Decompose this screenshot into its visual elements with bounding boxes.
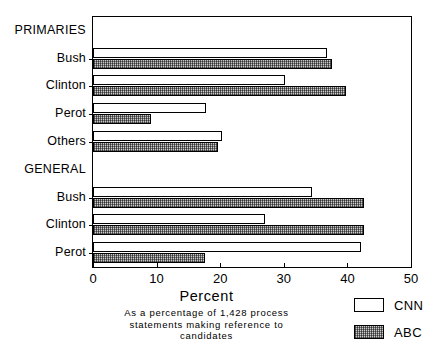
bar-cnn-clinton-2 — [93, 75, 285, 85]
y-axis-label-perot-8: Perot — [55, 245, 86, 259]
bar-abc-clinton-7 — [93, 225, 364, 235]
x-tick-label-40: 40 — [340, 271, 354, 286]
legend-swatch-cnn — [354, 298, 384, 312]
caption-line-1: As a percentage of 1,428 process — [94, 307, 319, 319]
y-axis-label-bush-6: Bush — [57, 190, 86, 204]
bar-abc-clinton-2 — [93, 86, 346, 96]
y-axis-labels: PRIMARIESBushClintonPerotOthersGENERALBu… — [0, 16, 86, 268]
bar-cnn-clinton-7 — [93, 214, 265, 224]
x-axis-ticks: 01020304050 — [0, 268, 439, 290]
x-tick-mark-50 — [411, 263, 412, 268]
y-axis-label-primaries-0: PRIMARIES — [15, 23, 86, 37]
bar-abc-bush-6 — [93, 198, 364, 208]
bar-abc-perot-3 — [93, 114, 151, 124]
bar-cnn-others-4 — [93, 131, 222, 141]
bar-abc-bush-1 — [93, 59, 332, 69]
y-axis-label-clinton-2: Clinton — [46, 78, 86, 92]
legend-swatch-abc — [354, 325, 384, 339]
y-axis-label-bush-1: Bush — [57, 51, 86, 65]
bar-abc-perot-8 — [93, 253, 205, 263]
bar-cnn-bush-6 — [93, 187, 312, 197]
y-axis-label-clinton-7: Clinton — [46, 217, 86, 231]
bar-chart: PRIMARIESBushClintonPerotOthersGENERALBu… — [0, 0, 439, 353]
x-tick-mark-10 — [157, 263, 158, 268]
legend: CNN ABC — [354, 296, 436, 350]
x-tick-label-10: 10 — [149, 271, 163, 286]
x-tick-label-50: 50 — [404, 271, 418, 286]
x-tick-label-0: 0 — [89, 271, 96, 286]
legend-item-abc: ABC — [354, 323, 436, 344]
y-axis-label-general-5: GENERAL — [24, 162, 86, 176]
caption-line-3: candidates — [94, 330, 319, 342]
legend-label-cnn: CNN — [394, 298, 423, 313]
x-tick-mark-0 — [93, 263, 94, 268]
bars-layer — [93, 17, 411, 267]
caption-block: Percent As a percentage of 1,428 process… — [94, 288, 319, 342]
x-tick-mark-30 — [284, 263, 285, 268]
legend-label-abc: ABC — [394, 325, 422, 340]
x-tick-label-20: 20 — [213, 271, 227, 286]
legend-item-cnn: CNN — [354, 296, 436, 317]
bar-cnn-perot-8 — [93, 242, 361, 252]
y-axis-label-others-4: Others — [47, 134, 86, 148]
caption-line-2: statements making reference to — [94, 319, 319, 331]
x-tick-mark-40 — [347, 263, 348, 268]
x-axis-title: Percent — [94, 288, 319, 304]
bar-cnn-perot-3 — [93, 103, 206, 113]
bar-abc-others-4 — [93, 142, 218, 152]
x-tick-label-30: 30 — [277, 271, 291, 286]
bar-cnn-bush-1 — [93, 48, 327, 58]
x-tick-mark-20 — [220, 263, 221, 268]
y-axis-label-perot-3: Perot — [55, 106, 86, 120]
